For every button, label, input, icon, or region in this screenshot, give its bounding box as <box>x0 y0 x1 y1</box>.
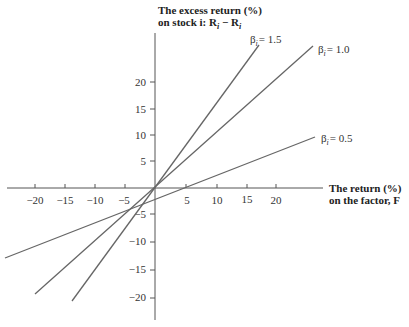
svg-text:20: 20 <box>271 194 283 206</box>
svg-text:βi= 1.0: βi= 1.0 <box>318 43 350 58</box>
svg-text:−15: −15 <box>129 263 147 275</box>
svg-text:−10: −10 <box>129 235 147 247</box>
svg-text:10: 10 <box>135 129 147 141</box>
svg-text:10: 10 <box>212 194 224 206</box>
svg-text:−20: −20 <box>26 194 44 206</box>
beta-1.5-line <box>72 45 259 301</box>
svg-text:βi= 0.5: βi= 0.5 <box>321 132 353 147</box>
svg-text:−10: −10 <box>86 194 104 206</box>
factor-model-chart: −20 −15 −10 −5 5 10 15 20 20 15 10 5 −5 … <box>0 0 409 327</box>
svg-text:20: 20 <box>135 76 147 88</box>
beta-0.5-label: βi= 0.5 <box>321 132 353 147</box>
beta-1.5-label: βi= 1.5 <box>250 33 282 48</box>
beta-1.0-line <box>35 46 313 294</box>
y-tick-labels: 20 15 10 5 −5 −10 −15 −20 <box>129 76 147 303</box>
svg-text:−20: −20 <box>129 291 147 303</box>
svg-text:5: 5 <box>184 194 190 206</box>
svg-text:βi= 1.5: βi= 1.5 <box>250 33 282 48</box>
svg-text:5: 5 <box>141 155 147 167</box>
svg-text:15: 15 <box>135 103 147 115</box>
beta-0.5-line <box>5 137 315 258</box>
beta-1.0-label: βi= 1.0 <box>318 43 350 58</box>
svg-text:15: 15 <box>242 193 254 205</box>
svg-text:−15: −15 <box>56 194 74 206</box>
svg-text:−5: −5 <box>118 194 130 206</box>
